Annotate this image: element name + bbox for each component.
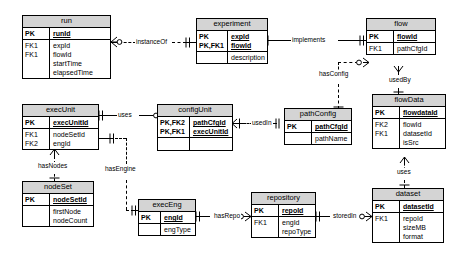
entity-attr-section: FK1 repoId sizeMB format xyxy=(373,212,443,242)
entity-attr-col: engType xyxy=(161,224,195,235)
relationship-label-hasrepo: hasRepo xyxy=(213,212,241,220)
relationship-label-hasconfig: hasConfig xyxy=(318,70,349,78)
entity-key-col: PK xyxy=(367,31,394,42)
entity-execeng[interactable]: execEng PK engId engType xyxy=(138,199,196,236)
entity-execunit[interactable]: execUnit PK execUnitId FK1 FK2 nodeSetId… xyxy=(22,104,99,150)
entity-attr-col: pathCfgId xyxy=(394,43,435,54)
entity-attr-col: execUnitId xyxy=(50,117,98,128)
entity-key-col xyxy=(23,206,50,226)
entity-flowdata[interactable]: flowData PK flowdataId FK2 FK1 flowId da… xyxy=(372,94,446,149)
entity-title-experiment: experiment xyxy=(197,19,267,31)
entity-run[interactable]: run PK runId FK1 FK1 expId flowId startT… xyxy=(22,15,111,79)
entity-attr-section: FK2 FK1 flowId datasetId isSrc xyxy=(373,118,445,148)
entity-key-col: FK1 FK2 xyxy=(23,129,50,149)
entity-experiment[interactable]: experiment PK PK,FK1 expId flowId descri… xyxy=(196,18,268,64)
entity-pk-section: PK flowId xyxy=(367,31,435,42)
entity-attr-col: flowId datasetId isSrc xyxy=(400,119,445,148)
entity-key-col: PK xyxy=(23,28,50,39)
entity-attr-col xyxy=(190,138,232,150)
entity-pk-section: PK datasetId xyxy=(373,201,443,212)
entity-attr-col: firstNode nodeCount xyxy=(50,206,93,226)
entity-nodeset[interactable]: nodeSet PK nodeSetId firstNode nodeCount xyxy=(22,181,94,227)
entity-attr-section xyxy=(158,137,232,150)
entity-attr-col: flowId xyxy=(394,31,435,42)
entity-pk-section: PK repoId xyxy=(252,205,315,216)
entity-attr-col: nodeSetId xyxy=(50,194,93,205)
entity-attr-section: FK1 FK2 nodeSetId engId xyxy=(23,128,98,149)
entity-pk-section: PK nodeSetId xyxy=(23,194,93,205)
entity-key-col xyxy=(158,138,190,150)
entity-title-flowdata: flowData xyxy=(373,95,445,107)
entity-attr-col: flowdataId xyxy=(400,107,445,118)
er-diagram-canvas: instanceOf implements hasConfig usedBy u… xyxy=(0,0,455,268)
entity-pathconfig[interactable]: pathConfig PK pathCfgId pathName xyxy=(284,108,352,145)
crowsfoot-optional-many-icon xyxy=(110,36,124,48)
relationship-label-hasnodes: hasNodes xyxy=(37,162,68,170)
entity-title-dataset: dataset xyxy=(373,189,443,201)
relationship-label-implements: implements xyxy=(291,36,326,44)
relationship-label-usedby: usedBy xyxy=(388,76,412,84)
entity-key-col xyxy=(139,224,161,235)
entity-attr-col: engId xyxy=(161,212,195,223)
entity-key-col: FK1 xyxy=(367,43,394,54)
entity-pk-section: PK engId xyxy=(139,212,195,223)
entity-attr-col: expId flowId xyxy=(228,31,267,51)
entity-attr-section: description xyxy=(197,51,267,63)
entity-pk-section: PK,FK2 PK,FK1 pathCfgId execUnitId xyxy=(158,117,232,137)
entity-attr-col: runId xyxy=(50,28,110,39)
entity-key-col: PK xyxy=(373,107,400,118)
cardinality-one-icon xyxy=(184,37,194,48)
entity-attr-section: FK1 FK1 expId flowId startTime elapsedTi… xyxy=(23,39,110,78)
entity-attr-section: engType xyxy=(139,223,195,235)
relationship-label-instanceof: instanceOf xyxy=(135,38,168,46)
entity-key-col: PK xyxy=(23,117,50,128)
entity-key-col: PK xyxy=(23,194,50,205)
entity-attr-col: engId repoType xyxy=(279,217,315,237)
relationship-label-usedin: usedIn xyxy=(251,119,273,127)
entity-attr-section: firstNode nodeCount xyxy=(23,205,93,226)
entity-title-flow: flow xyxy=(367,19,435,31)
entity-attr-col: datasetId xyxy=(400,201,443,212)
entity-attr-section: pathName xyxy=(285,132,351,144)
entity-title-pathconfig: pathConfig xyxy=(285,109,351,121)
entity-attr-col: repoId xyxy=(279,205,315,216)
entity-pk-section: PK flowdataId xyxy=(373,107,445,118)
relationship-label-uses-dataset: uses xyxy=(396,168,412,176)
entity-key-col: FK1 FK1 xyxy=(23,40,50,78)
entity-title-configunit: configUnit xyxy=(158,105,232,117)
relationship-label-hasengine: hasEngine xyxy=(104,165,137,173)
entity-title-nodeset: nodeSet xyxy=(23,182,93,194)
entity-pk-section: PK pathCfgId xyxy=(285,121,351,132)
entity-key-col: PK xyxy=(285,121,312,132)
entity-attr-col: expId flowId startTime elapsedTime xyxy=(50,40,110,78)
entity-pk-section: PK runId xyxy=(23,28,110,39)
entity-attr-section: FK1 pathCfgId xyxy=(367,42,435,54)
relationship-label-storedin: storedIn xyxy=(332,212,358,220)
entity-key-col: FK1 xyxy=(252,217,279,237)
crowsfoot-many-icon xyxy=(399,156,410,165)
entity-title-execunit: execUnit xyxy=(23,105,98,117)
crowsfoot-optional-many-icon xyxy=(355,57,371,68)
entity-attr-section: FK1 engId repoType xyxy=(252,216,315,237)
crowsfoot-many-icon xyxy=(393,64,404,73)
entity-configunit[interactable]: configUnit PK,FK2 PK,FK1 pathCfgId execU… xyxy=(157,104,233,151)
entity-key-col: PK xyxy=(373,201,400,212)
entity-attr-col: repoId sizeMB format xyxy=(400,213,443,242)
entity-title-execeng: execEng xyxy=(139,200,195,212)
entity-key-col: PK PK,FK1 xyxy=(197,31,228,51)
entity-repository[interactable]: repository PK repoId FK1 engId repoType xyxy=(251,192,316,238)
entity-attr-col: nodeSetId engId xyxy=(50,129,98,149)
entity-flow[interactable]: flow PK flowId FK1 pathCfgId xyxy=(366,18,436,55)
entity-pk-section: PK PK,FK1 expId flowId xyxy=(197,31,267,51)
entity-title-run: run xyxy=(23,16,110,28)
entity-dataset[interactable]: dataset PK datasetId FK1 repoId sizeMB f… xyxy=(372,188,444,243)
cardinality-one-icon xyxy=(108,133,118,144)
entity-pk-section: PK execUnitId xyxy=(23,117,98,128)
cardinality-one-icon xyxy=(274,118,282,129)
entity-attr-col: description xyxy=(228,52,267,63)
entity-key-col: PK,FK2 PK,FK1 xyxy=(158,117,190,137)
entity-attr-col: pathName xyxy=(312,133,351,144)
entity-attr-col: pathCfgId execUnitId xyxy=(190,117,232,137)
entity-key-col: FK1 xyxy=(373,213,400,242)
entity-key-col: FK2 FK1 xyxy=(373,119,400,148)
